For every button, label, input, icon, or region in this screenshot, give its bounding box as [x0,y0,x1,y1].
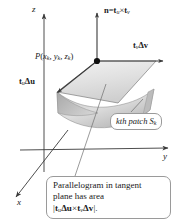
tu-du-label: tuΔu [19,77,35,86]
z-axis-label: z [32,5,36,14]
point-p-label: P(xk, yk, zk) [35,52,73,61]
y-axis-label: y [163,152,167,161]
area-close-bar: |. [93,203,97,213]
tu-delta: Δu [25,76,35,86]
x-axis-label: x [17,198,21,207]
kth-patch-prefix: kth patch [116,116,150,126]
kth-patch-callout: kth patch Sk [110,113,162,130]
normal-vector-label: n=tu×tv [104,6,130,15]
point-p-marker [94,58,100,64]
surface-patch-figure: z y x n=tu×tv tvΔv tuΔu P(xk, yk, zk) kt… [0,0,187,219]
tangent-plane-parallelogram [57,61,156,103]
kth-patch-symbol-sub: k [154,120,157,126]
area-callout-line-1: Parallelogram in tangent [53,180,165,191]
tv-dv-label: tvΔv [133,41,148,50]
area-du: Δu [61,203,72,213]
area-callout: Parallelogram in tangent plane has area … [46,176,171,219]
tv-delta: Δv [139,40,149,50]
area-dv: Δv [83,203,93,213]
area-callout-line-2: plane has area [53,191,165,202]
area-callout-line-3: |tuΔu×tvΔv|. [53,203,165,215]
normal-vector-tv-sub: v [127,9,130,15]
point-close-paren: ) [70,51,73,61]
y-axis [20,148,168,150]
